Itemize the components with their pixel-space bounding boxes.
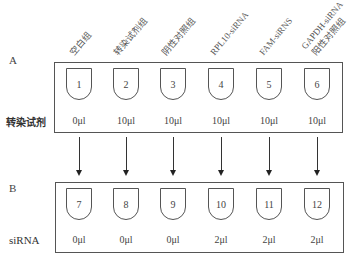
panel-b-letter: B	[9, 182, 16, 194]
column-label-transfection-reagent: 转染试剂组	[113, 17, 149, 57]
volume-12: 2μl	[297, 234, 337, 245]
volume-11: 2μl	[249, 234, 289, 245]
arrow-down-icon	[126, 137, 127, 171]
volume-6: 10μl	[297, 115, 337, 126]
tube-1: 1	[66, 68, 92, 100]
tube-5: 5	[256, 68, 282, 100]
tube-3: 3	[160, 68, 186, 100]
arrow-down-icon	[221, 137, 222, 171]
panel-a-row-label: 转染试剂	[6, 114, 46, 129]
arrow-down-icon	[317, 137, 318, 171]
arrow-down-icon	[79, 137, 80, 171]
tube-6: 6	[304, 68, 330, 100]
volume-8: 0μl	[106, 234, 146, 245]
tube-7: 7	[66, 188, 92, 220]
volume-9: 0μl	[153, 234, 193, 245]
arrow-down-icon	[269, 137, 270, 171]
column-label-fam-sirns: FAM-siRNS	[258, 16, 294, 57]
column-label-blank: 空白组	[69, 31, 93, 57]
column-label-negative-control: 阴性对照组	[161, 17, 197, 57]
panel-a-letter: A	[9, 54, 17, 66]
tube-4: 4	[208, 68, 234, 100]
tube-12: 12	[304, 188, 330, 220]
panel-b-row-label: siRNA	[9, 234, 40, 246]
tube-11: 11	[256, 188, 282, 220]
column-label-rpl10-sirna: RPL10-siRNA	[209, 10, 250, 57]
volume-4: 10μl	[201, 115, 241, 126]
tube-2: 2	[113, 68, 139, 100]
volume-7: 0μl	[59, 234, 99, 245]
tube-9: 9	[160, 188, 186, 220]
tube-8: 8	[113, 188, 139, 220]
arrow-down-icon	[173, 137, 174, 171]
volume-1: 0μl	[59, 115, 99, 126]
volume-3: 10μl	[153, 115, 193, 126]
volume-2: 10μl	[106, 115, 146, 126]
volume-10: 2μl	[201, 234, 241, 245]
volume-5: 10μl	[249, 115, 289, 126]
tube-10: 10	[208, 188, 234, 220]
